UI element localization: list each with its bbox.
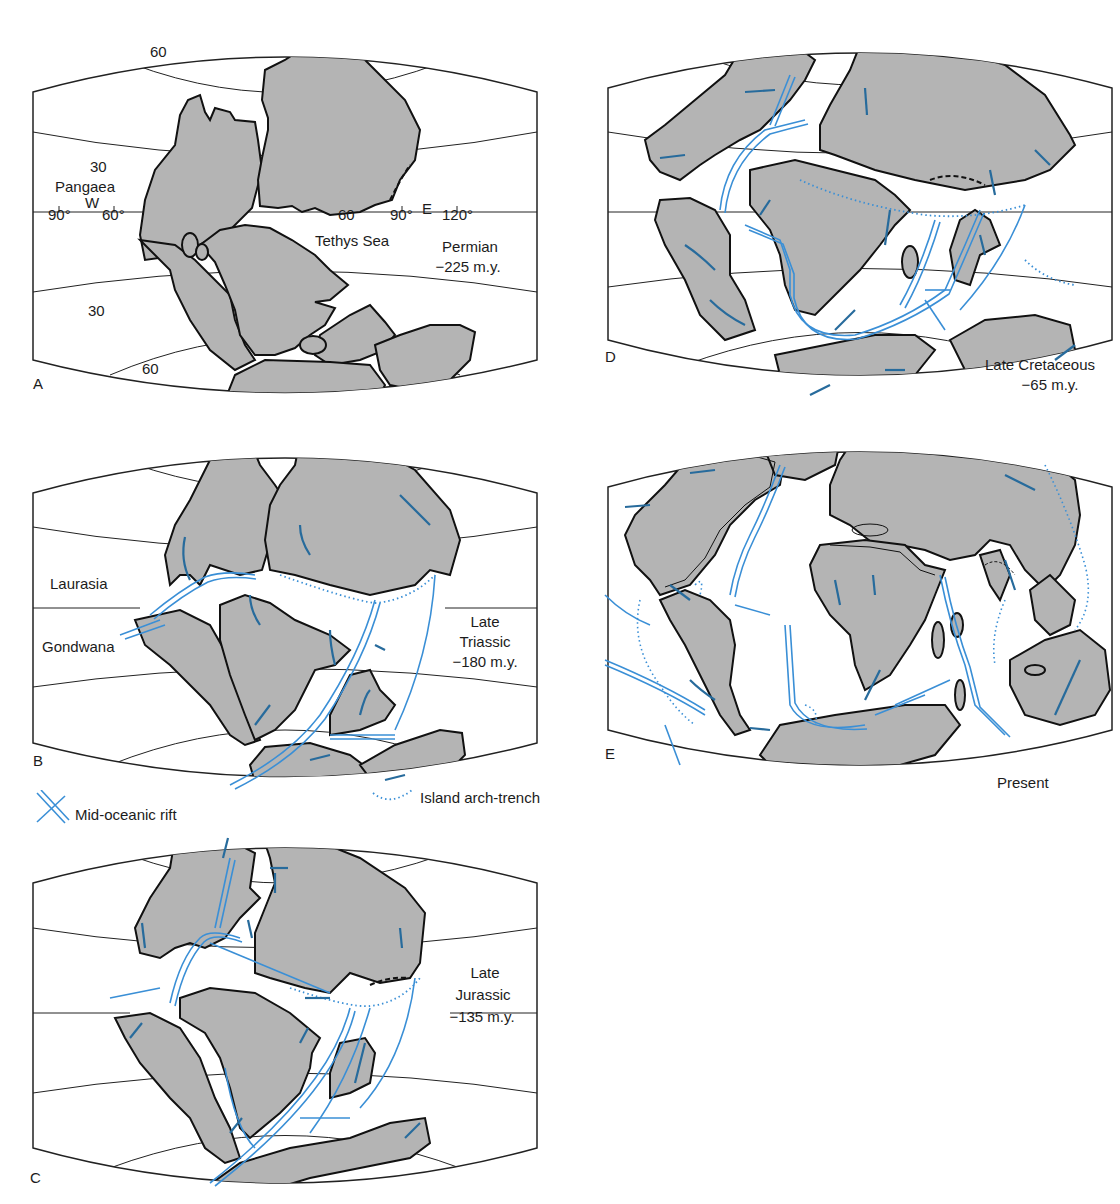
lon-label: 90° bbox=[390, 206, 413, 223]
panel-letter: B bbox=[33, 752, 43, 769]
legend-rift: Mid-oceanic rift bbox=[35, 790, 255, 830]
panel-d-late-cretaceous: D bbox=[605, 30, 1115, 390]
panel-e-present: E bbox=[605, 425, 1115, 770]
lat-label: 30 bbox=[90, 158, 107, 175]
map-d bbox=[605, 30, 1115, 390]
hemisphere-west-label: W bbox=[85, 194, 99, 211]
age-label: −225 m.y. bbox=[418, 258, 518, 275]
lon-label: 60° bbox=[102, 206, 125, 223]
panel-c-late-jurassic: Late Jurassic −135 m.y. C bbox=[30, 828, 540, 1193]
age-label: −180 m.y. bbox=[438, 653, 532, 670]
mid-ocean-rift-symbol-icon bbox=[35, 790, 75, 830]
legend-trench-label: Island arch-trench bbox=[420, 789, 540, 806]
panel-letter: E bbox=[605, 745, 615, 762]
lat-label: 30 bbox=[88, 302, 105, 319]
map-b bbox=[30, 425, 540, 770]
dotted-arc-symbol-icon bbox=[370, 785, 420, 815]
lat-label: 60 bbox=[150, 43, 167, 60]
lon-label: 120° bbox=[442, 206, 473, 223]
panel-letter: D bbox=[605, 348, 616, 365]
age-label: −135 m.y. bbox=[435, 1008, 529, 1025]
hemisphere-east-label: E bbox=[422, 200, 432, 217]
period-label-e: Present bbox=[997, 774, 1049, 791]
age-label-d: −65 m.y. bbox=[1005, 376, 1095, 393]
period-label-d: Late Cretaceous bbox=[965, 356, 1115, 373]
legend-rift-label: Mid-oceanic rift bbox=[75, 806, 177, 823]
period-label-line1: Late bbox=[450, 964, 520, 981]
laurasia-label: Laurasia bbox=[50, 575, 108, 592]
panel-b-late-triassic: Laurasia Gondwana Late Triassic −180 m.y… bbox=[30, 425, 540, 770]
period-label-line1: Late bbox=[450, 613, 520, 630]
lon-label: 60 bbox=[338, 206, 355, 223]
lat-label: 60 bbox=[142, 360, 159, 377]
panel-letter: C bbox=[30, 1169, 41, 1186]
legend-trench: Island arch-trench bbox=[370, 785, 570, 815]
period-label-line2: Jurassic bbox=[440, 986, 526, 1003]
sea-label: Tethys Sea bbox=[315, 232, 389, 249]
panel-a-permian: 60 30 Pangaea W 90° 60° 60 90° E 120° Te… bbox=[30, 30, 540, 390]
period-label-line2: Triassic bbox=[442, 633, 528, 650]
map-e bbox=[605, 425, 1115, 770]
panel-letter: A bbox=[33, 375, 43, 392]
supercontinent-label: Pangaea bbox=[55, 178, 115, 195]
gondwana-label: Gondwana bbox=[42, 638, 115, 655]
lon-label: 90° bbox=[48, 206, 71, 223]
period-label: Permian bbox=[425, 238, 515, 255]
